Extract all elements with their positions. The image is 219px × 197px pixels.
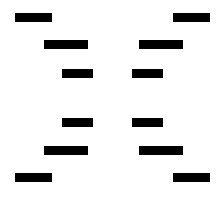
bar-row1-left xyxy=(15,13,52,22)
figure-canvas xyxy=(0,0,219,197)
bar-row4-right xyxy=(132,118,163,127)
bar-row2-left xyxy=(44,40,88,49)
bar-row4-left xyxy=(62,118,93,127)
bar-row6-right xyxy=(173,173,210,182)
bar-row3-right xyxy=(132,69,163,78)
bar-row6-left xyxy=(15,173,52,182)
bar-row5-right xyxy=(139,146,183,155)
bar-row1-right xyxy=(173,13,210,22)
bar-row3-left xyxy=(62,69,93,78)
bar-row2-right xyxy=(139,40,183,49)
bar-row5-left xyxy=(44,146,88,155)
